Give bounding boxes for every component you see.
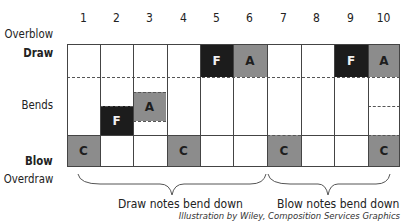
curly-braces — [0, 0, 406, 224]
draw-brace-label: Draw notes bend down — [118, 197, 243, 211]
blow-brace-label: Blow notes bend down — [277, 197, 399, 211]
draw-brace-icon — [78, 174, 266, 195]
blow-brace-icon — [268, 174, 390, 195]
illustration-credit: Illustration by Wiley, Composition Servi… — [179, 211, 400, 221]
